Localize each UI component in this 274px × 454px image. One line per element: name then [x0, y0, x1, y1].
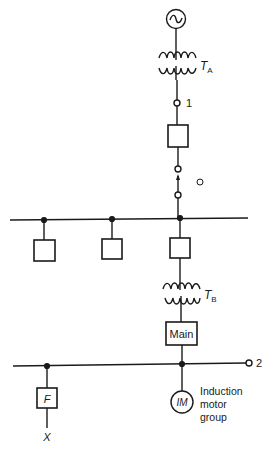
main-breaker-label: Main [170, 328, 194, 340]
motor-desc-line3: group [200, 411, 227, 423]
feeder-box-2 [102, 239, 122, 259]
transformer-a-icon [159, 45, 196, 80]
switch-contact-top [175, 166, 181, 172]
node-1-terminal [174, 100, 180, 106]
motor-desc-line1: Induction [200, 385, 243, 397]
induction-motor-label: IM [176, 397, 188, 408]
node-1-label: 1 [186, 97, 192, 109]
power-system-diagram: TA 1 TB Main 2 F X IM Induction motor gr… [0, 0, 274, 454]
motor-desc-line2: motor [200, 398, 227, 410]
node-2-terminal [246, 360, 252, 366]
fault-point-label: X [42, 431, 51, 443]
arrow-icon [176, 174, 180, 180]
feeder-box-1 [34, 240, 55, 261]
transformer-b-icon [163, 276, 200, 322]
transformer-b-label: TB [204, 288, 217, 304]
feeder-box-3 [170, 238, 190, 258]
stray-circle [197, 179, 203, 185]
switch-contact-bottom [175, 192, 181, 198]
transformer-a-label: TA [200, 59, 213, 75]
ac-generator-icon [167, 10, 186, 29]
upper-breaker-box [168, 125, 188, 147]
node-2-label: 2 [256, 357, 262, 369]
